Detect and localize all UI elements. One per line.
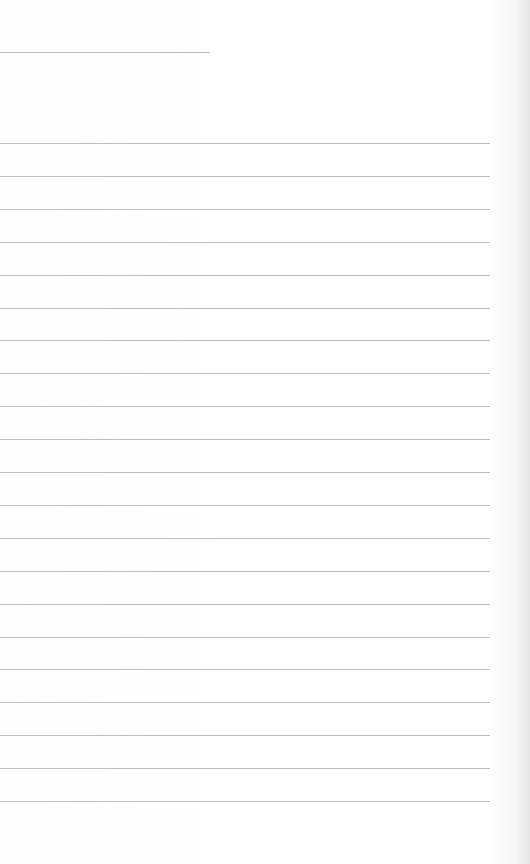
ruled-line <box>0 242 490 243</box>
ruled-line <box>0 439 490 440</box>
ruled-line <box>0 406 490 407</box>
ruled-line <box>0 373 490 374</box>
ruled-line <box>0 143 490 144</box>
ruled-line <box>0 472 490 473</box>
ruled-line <box>0 669 490 670</box>
ruled-line <box>0 176 490 177</box>
ruled-line <box>0 340 490 341</box>
ruled-line <box>0 538 490 539</box>
ruled-line <box>0 275 490 276</box>
ruled-line <box>0 571 490 572</box>
ruled-line <box>0 604 490 605</box>
page-edge-shadow <box>516 0 530 864</box>
ruled-line <box>0 801 490 802</box>
ruled-line <box>0 735 490 736</box>
lined-paper-page <box>0 0 530 864</box>
ruled-line <box>0 637 490 638</box>
ruled-line <box>0 308 490 309</box>
ruled-line <box>0 702 490 703</box>
ruled-line <box>0 768 490 769</box>
ruled-line <box>0 505 490 506</box>
ruled-line <box>0 209 490 210</box>
header-name-line <box>0 52 210 53</box>
